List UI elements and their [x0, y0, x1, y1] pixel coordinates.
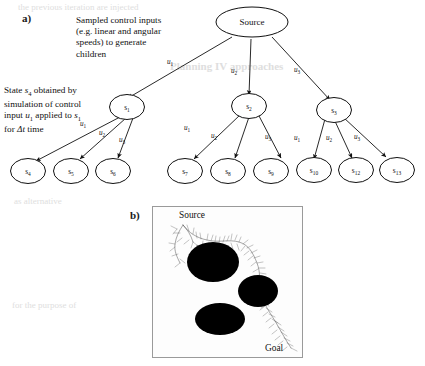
obstacle-upper-left: [187, 242, 239, 282]
edge-label-s1-u3: u3: [119, 136, 125, 144]
edge-label-s2-u1: u1: [184, 124, 190, 132]
node-s6-label: s6: [110, 167, 116, 176]
node-s9-label: s9: [268, 167, 274, 176]
edge-label-s1-u1: u1: [80, 120, 86, 128]
figure-root: the previous iteration are injected Plan…: [0, 0, 425, 366]
panel-b-letter: b): [130, 209, 140, 221]
obstacle-lower-left: [195, 303, 245, 335]
node-s4-label: s4: [25, 167, 31, 176]
panel-b-workspace: Source Goal: [152, 206, 303, 358]
edge-label-root-u2: u2: [231, 67, 237, 75]
node-s7-label: s7: [182, 167, 188, 176]
edge-label-s2-u3: u3: [265, 133, 271, 141]
node-s1-label: s1: [124, 103, 130, 112]
panel-b-goal-label: Goal: [265, 343, 283, 353]
edge-label-s3-u2: u2: [326, 134, 332, 142]
node-s10-label: s10: [310, 166, 318, 175]
node-s5-label: s5: [68, 167, 74, 176]
edge-label-root-u1: u1: [167, 58, 173, 66]
node-s2-label: s2: [246, 102, 252, 111]
obstacle-right: [238, 275, 278, 307]
node-s13-label: s13: [393, 166, 401, 175]
node-s3-label: s3: [331, 106, 337, 115]
edge-label-s3-u1: u1: [294, 134, 300, 142]
edge-label-s1-u2: u2: [99, 129, 105, 137]
panel-b-source-label: Source: [179, 210, 205, 220]
edge-label-s3-u3: u3: [354, 133, 360, 141]
edge-label-root-u3: u3: [294, 66, 300, 74]
node-s8-label: s8: [225, 167, 231, 176]
edge-label-s2-u2: u2: [211, 132, 217, 140]
node-source-label: Source: [240, 17, 265, 27]
rrt-layer: [153, 207, 303, 358]
node-s12-label: s12: [352, 166, 360, 175]
